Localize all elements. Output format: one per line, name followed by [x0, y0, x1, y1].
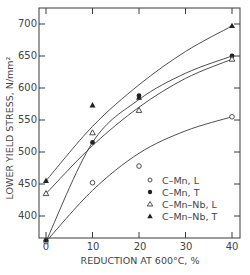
filled-circle-icon	[148, 190, 152, 194]
y-tick-label: 600	[18, 82, 37, 93]
legend-item-c-mn-l: C–Mn, L	[148, 175, 200, 186]
y-axis-title: LOWER YIELD STRESS, N/mm²	[4, 56, 15, 199]
y-tick-label: 500	[18, 146, 37, 157]
open-triangle-icon	[147, 202, 152, 207]
open-circle-icon	[148, 178, 152, 182]
x-tick-label: 20	[134, 241, 147, 252]
legend-item-c-mn-t: C–Mn, T	[148, 187, 200, 198]
data-point-open-triangle	[90, 130, 96, 135]
x-tick-label: 10	[87, 241, 100, 252]
legend-item-c-mn-nb-l: C–Mn–Nb, L	[147, 199, 217, 210]
data-point-filled-circle	[90, 140, 95, 145]
x-tick-label: 40	[226, 241, 239, 252]
data-point-open-circle	[90, 180, 95, 185]
legend-label: C–Mn–Nb, T	[162, 211, 218, 222]
y-tick-labels: 400 450 500 550 600 650 700	[18, 18, 37, 221]
y-tick-label: 650	[18, 50, 37, 61]
fitted-curve	[46, 26, 232, 181]
legend: C–Mn, L C–Mn, T C–Mn–Nb, L C–Mn–Nb, T	[147, 175, 217, 222]
y-tick-label: 400	[18, 210, 37, 221]
legend-label: C–Mn, L	[162, 175, 200, 186]
y-tick-label: 700	[18, 18, 37, 29]
legend-item-c-mn-nb-t: C–Mn–Nb, T	[147, 211, 217, 222]
x-tick-label: 30	[180, 241, 193, 252]
x-tick-labels: 0 10 20 30 40	[43, 241, 239, 252]
x-axis-title: REDUCTION AT 600°C, %	[81, 255, 200, 266]
data-point-open-circle	[137, 164, 142, 169]
filled-triangle-icon	[147, 214, 153, 219]
yield-stress-chart: 400 450 500 550 600 650 700 0 10 20 30 4…	[0, 0, 250, 275]
legend-label: C–Mn, T	[162, 187, 200, 198]
data-point-open-circle	[230, 115, 235, 120]
y-axis	[39, 24, 240, 216]
y-tick-label: 550	[18, 114, 37, 125]
data-point-filled-circle	[44, 238, 49, 243]
data-point-filled-triangle	[90, 102, 96, 107]
y-tick-label: 450	[18, 178, 37, 189]
legend-label: C–Mn–Nb, L	[162, 199, 218, 210]
fitted-curve	[46, 59, 232, 193]
